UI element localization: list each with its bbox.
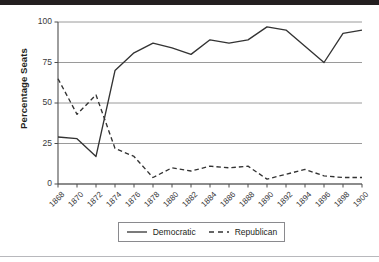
chart-figure: Percentage Seats 0255075100 186818701872… [0,0,379,262]
legend-label-democratic: Democratic [153,227,196,237]
legend-label-republican: Republican [235,227,278,237]
legend-entry-democratic: Democratic [126,227,196,237]
legend-entry-republican: Republican [208,227,278,237]
series-line-republican [58,79,362,179]
legend-swatch-solid-icon [126,228,148,236]
legend-swatch-dashed-icon [208,228,230,236]
chart-legend: Democratic Republican [118,222,285,242]
series-line-democratic [58,27,362,157]
